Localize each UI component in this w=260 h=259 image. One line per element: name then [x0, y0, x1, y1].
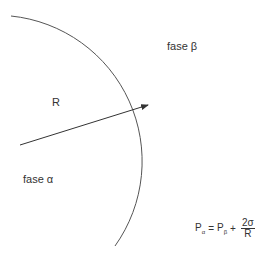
phase-beta-label: fase β — [167, 40, 197, 52]
diagram-canvas: fase β R fase α Pα = Pβ + 2σ R — [0, 0, 260, 259]
formula-equals: = — [208, 223, 214, 234]
fraction-denominator: R — [244, 229, 251, 239]
radius-arrow — [20, 105, 148, 145]
radius-label: R — [52, 96, 60, 108]
formula-lhs: Pα — [195, 222, 205, 235]
phase-alpha-label: fase α — [23, 173, 53, 185]
formula-plus: + — [230, 223, 236, 234]
laplace-formula: Pα = Pβ + 2σ R — [195, 218, 255, 239]
formula-rhs: Pβ — [217, 222, 227, 235]
interface-arc — [11, 16, 142, 246]
formula-fraction: 2σ R — [241, 218, 255, 239]
